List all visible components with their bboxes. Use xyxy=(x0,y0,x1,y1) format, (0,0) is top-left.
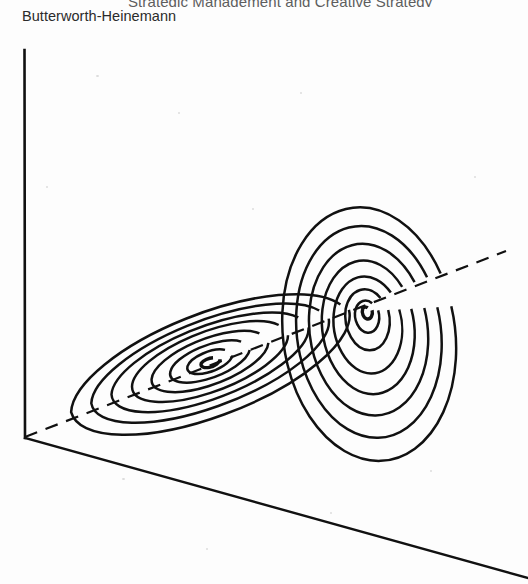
right-contour-spiral xyxy=(266,196,472,472)
contour-figure xyxy=(0,0,528,584)
right-ring-5 xyxy=(298,236,439,423)
right-ring-3 xyxy=(327,272,408,378)
left-ring-6 xyxy=(77,277,343,448)
left-ring-2 xyxy=(165,331,254,391)
left-ring-1 xyxy=(184,344,235,380)
right-ring-1 xyxy=(353,299,381,334)
scanned-page: Strategic Management and Creative Strate… xyxy=(0,0,528,584)
vertical-axis-line xyxy=(25,50,26,438)
right-ring-core xyxy=(362,306,374,319)
depth-axis-dashed-line xyxy=(25,251,506,437)
horizontal-axis-line xyxy=(25,438,528,578)
